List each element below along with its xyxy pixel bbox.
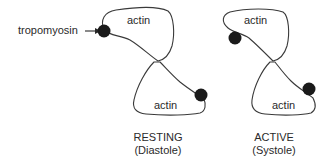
resting-state-label: RESTING	[134, 131, 183, 143]
active-phase-label: (Systole)	[252, 144, 295, 156]
active-panel: actin actin ACTIVE (Systole)	[223, 9, 315, 156]
resting-bottom-actin-label: actin	[154, 99, 177, 111]
resting-tropomyosin-top	[98, 25, 111, 38]
actin-tropomyosin-diagram: tropomyosin actin actin RESTING (Diastol…	[0, 0, 328, 161]
active-state-label: ACTIVE	[254, 131, 294, 143]
resting-top-actin-label: actin	[127, 14, 150, 26]
resting-panel: actin actin RESTING (Diastole)	[98, 8, 208, 157]
diagram-canvas: tropomyosin actin actin RESTING (Diastol…	[0, 0, 328, 161]
active-tropomyosin-bottom	[303, 83, 316, 96]
resting-phase-label: (Diastole)	[134, 144, 181, 156]
active-tropomyosin-top	[229, 32, 242, 45]
active-top-actin-label: actin	[244, 14, 267, 26]
resting-tropomyosin-bottom	[195, 89, 208, 102]
active-bottom-actin-label: actin	[272, 99, 295, 111]
tropomyosin-label: tropomyosin	[18, 24, 78, 36]
